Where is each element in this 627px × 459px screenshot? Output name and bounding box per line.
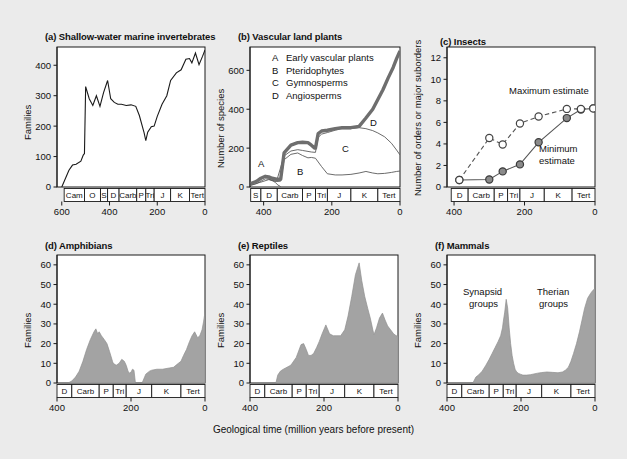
figure-caption: Geological time (million years before pr… (0, 424, 627, 435)
period-band-label: Carb (467, 387, 485, 396)
ytick-label: 30 (430, 318, 441, 329)
annotation-therian-line2: groups (539, 298, 568, 309)
annotation-therian-line1: Therian (537, 286, 569, 297)
period-band-label: P (494, 387, 499, 396)
period-band-label: J (527, 387, 531, 396)
annotation-synapsid-line2: groups (469, 298, 498, 309)
annotation-synapsid-line1: Synapsid (463, 286, 502, 297)
ytick-label: 50 (430, 279, 441, 290)
period-band-label: Tri (505, 387, 514, 396)
xtick-label: 400 (439, 402, 455, 413)
xtick-label: 0 (592, 402, 597, 413)
xtick-label: 200 (513, 402, 529, 413)
panel-f: (f) MammalsFamilies0102030405060DCarbPTr… (0, 0, 627, 459)
ytick-label: 20 (430, 338, 441, 349)
geological-diversity-figure: (a) Shallow-water marine invertebratesFa… (0, 0, 627, 459)
panel-f-plot: 0102030405060DCarbPTriJKTert4002000Synap… (0, 0, 627, 459)
period-band-label: Tert (576, 387, 590, 396)
ytick-label: 60 (430, 259, 441, 270)
ytick-label: 10 (430, 358, 441, 369)
ytick-label: 0 (436, 377, 441, 388)
period-band-label: D (452, 387, 458, 396)
period-band-label: K (554, 387, 560, 396)
ytick-label: 40 (430, 299, 441, 310)
